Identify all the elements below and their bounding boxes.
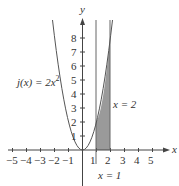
x-tick-label: −3 xyxy=(34,155,46,166)
function-label: j(x) = 2x2 xyxy=(17,75,60,88)
x-tick-label: 4 xyxy=(134,155,140,166)
y-axis-label: y xyxy=(80,4,85,15)
y-tick-label: 6 xyxy=(71,61,77,72)
y-tick-label: 5 xyxy=(71,75,77,86)
y-tick-label: 7 xyxy=(71,47,77,58)
x-tick-label: 1 xyxy=(90,155,96,166)
x-tick-label: 5 xyxy=(148,155,154,166)
x-axis-arrow-icon xyxy=(163,148,170,153)
label-x-equals-2: x = 2 xyxy=(113,99,136,110)
x-tick-label: −5 xyxy=(6,155,18,166)
y-tick-label: 8 xyxy=(71,33,77,44)
y-tick-label: 1 xyxy=(71,131,77,142)
y-tick-label: 3 xyxy=(71,103,77,114)
x-axis-label: x xyxy=(172,144,177,155)
x-tick-label: −1 xyxy=(62,155,74,166)
y-tick-label: 4 xyxy=(71,89,77,100)
x-tick-label: 2 xyxy=(105,155,111,166)
y-axis-arrow-icon xyxy=(80,18,85,25)
x-tick-label: 3 xyxy=(120,155,126,166)
y-tick-label: 2 xyxy=(71,117,77,128)
x-tick-label: −2 xyxy=(48,155,60,166)
label-x-equals-1: x = 1 xyxy=(98,170,121,181)
x-tick-label: −4 xyxy=(20,155,32,166)
